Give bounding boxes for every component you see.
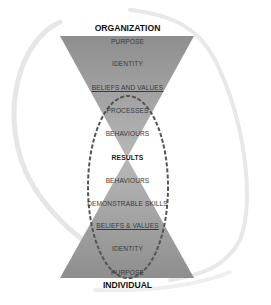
hourglass-graphic: [0, 0, 271, 305]
org-identity-label: IDENTITY: [0, 60, 255, 67]
org-purpose-label: PURPOSE: [0, 38, 255, 45]
ind-beliefs-values-label: BELIEFS & VALUES: [0, 222, 255, 229]
org-behaviours-label: BEHAVIOURS: [0, 130, 255, 137]
organization-title: ORGANIZATION: [0, 23, 255, 33]
individual-triangle: [60, 158, 194, 278]
org-processes-label: PROCESSES: [0, 107, 255, 114]
ind-demonstrable-skills-label: DEMONSTRABLE SKILLS: [0, 200, 255, 207]
individual-title: INDIVIDUAL: [0, 280, 255, 290]
hourglass-diagram: ORGANIZATION PURPOSE IDENTITY BELIEFS AN…: [0, 0, 271, 305]
ind-purpose-label: PURPOSE: [0, 269, 255, 276]
ind-behaviours-label: BEHAVIOURS: [0, 177, 255, 184]
ind-identity-label: IDENTITY: [0, 245, 255, 252]
results-label: RESULTS: [0, 154, 255, 161]
org-beliefs-values-label: BELIEFS AND VALUES: [0, 84, 255, 91]
